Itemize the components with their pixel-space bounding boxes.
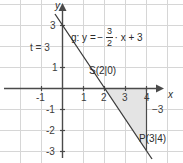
graph-figure: y x 3 1 -1 -2 -3 -1 1 2 3 4 t = 3 g: y =… [0,0,183,163]
x-tick-1: 1 [81,93,87,103]
point-label-s: S(2|0) [89,66,116,76]
fraction-numerator: 3 [107,27,112,36]
y-axis-label: y [55,1,60,11]
equation-fraction: 3 2 [106,27,113,48]
x-axis-label: x [168,90,173,100]
equation-suffix: · x + 3 [115,33,143,43]
line-equation-label: g: y = − 3 2 · x + 3 [71,27,144,48]
equation-prefix: g: y = [71,33,96,43]
y-tick-minus-1: -1 [46,105,55,115]
y-tick-minus-3: -3 [46,147,55,157]
y-tick-1: 1 [52,63,58,73]
y-tick-3: 3 [50,21,56,31]
side-length-label: −3 [152,105,163,115]
fraction-denominator: 2 [107,39,112,48]
x-tick-2: 2 [101,93,107,103]
x-axis-arrow [156,85,164,93]
x-tick-4: 4 [144,93,150,103]
equation-minus-sign: − [97,33,103,43]
y-tick-minus-2: -2 [46,126,55,136]
x-tick-minus-1: -1 [36,93,45,103]
point-label-p: P(3|4) [139,134,166,144]
x-tick-3: 3 [122,93,128,103]
t-value-label: t = 3 [30,43,50,53]
